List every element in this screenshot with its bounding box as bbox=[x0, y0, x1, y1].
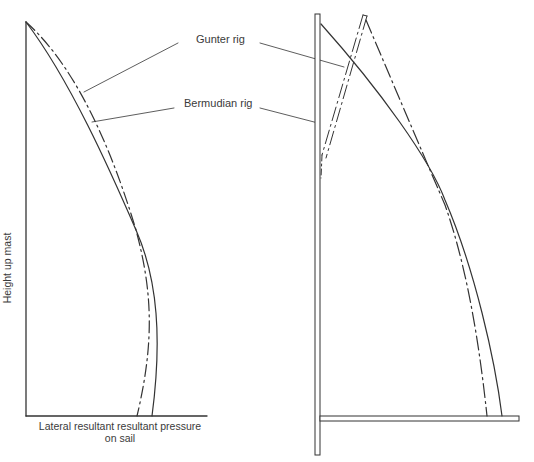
bermudian-leader-right bbox=[260, 108, 318, 123]
gunter-leader-right bbox=[260, 43, 344, 67]
x-axis-label-line1: Lateral resultant resultant pressure bbox=[22, 420, 218, 432]
bermudian-pressure-curve bbox=[26, 22, 157, 416]
gunter-leader-left bbox=[84, 43, 178, 92]
mast bbox=[315, 14, 320, 455]
bermudian-rig-label: Bermudian rig bbox=[184, 97, 252, 109]
gunter-rig-label: Gunter rig bbox=[196, 33, 245, 45]
x-axis-label-line2: on sail bbox=[22, 432, 218, 444]
gunter-yard-a bbox=[322, 15, 363, 155]
sail-pressure-diagram bbox=[0, 0, 534, 462]
x-axis-label: Lateral resultant resultant pressure on … bbox=[22, 420, 218, 444]
bermudian-sail-leech bbox=[321, 24, 502, 416]
bermudian-leader-left bbox=[92, 108, 174, 122]
boom bbox=[320, 416, 519, 421]
y-axis-label: Height up mast bbox=[1, 223, 13, 313]
gunter-luff-lower bbox=[321, 155, 322, 178]
gunter-sail-leech bbox=[366, 20, 487, 416]
gunter-yard-tip bbox=[363, 15, 367, 16]
